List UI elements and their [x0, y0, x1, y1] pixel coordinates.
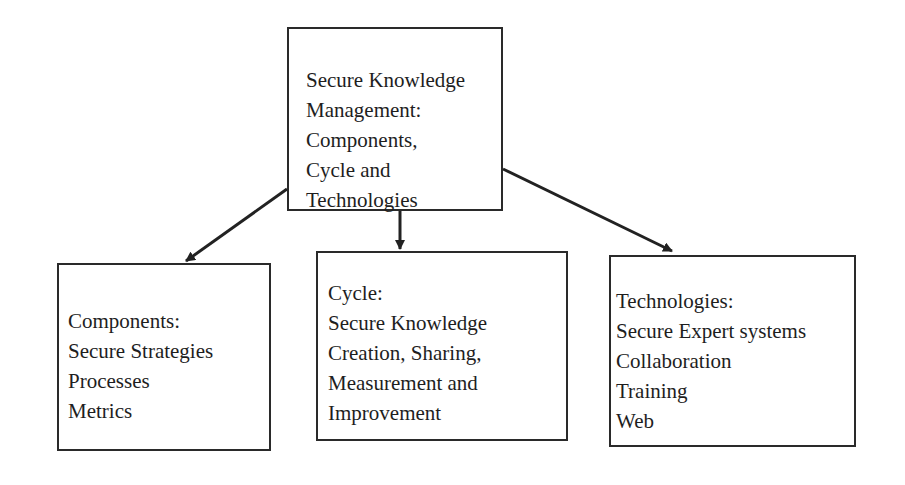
arrow-root-to-components: [186, 189, 287, 261]
arrow-root-to-technologies: [503, 169, 672, 251]
technologies-node-text: Technologies: Secure Expert systems Coll…: [616, 286, 806, 436]
technologies-line: Web: [616, 406, 806, 436]
technologies-line: Technologies:: [616, 286, 806, 316]
root-line: Cycle and: [306, 155, 465, 185]
root-line: Components,: [306, 125, 465, 155]
technologies-line: Secure Expert systems: [616, 316, 806, 346]
cycle-node-text: Cycle: Secure Knowledge Creation, Sharin…: [328, 278, 487, 428]
technologies-line: Training: [616, 376, 806, 406]
cycle-line: Secure Knowledge: [328, 308, 487, 338]
cycle-line: Cycle:: [328, 278, 487, 308]
components-node: Components: Secure Strategies Processes …: [57, 263, 271, 451]
cycle-line: Improvement: [328, 398, 487, 428]
components-line: Components:: [68, 306, 213, 336]
components-line: Processes: [68, 366, 213, 396]
root-line: Management:: [306, 95, 465, 125]
components-line: Secure Strategies: [68, 336, 213, 366]
cycle-line: Measurement and: [328, 368, 487, 398]
root-line: Technologies: [306, 185, 465, 215]
root-line: Secure Knowledge: [306, 65, 465, 95]
cycle-node: Cycle: Secure Knowledge Creation, Sharin…: [316, 251, 568, 441]
root-node: Secure Knowledge Management: Components,…: [287, 27, 503, 211]
root-node-text: Secure Knowledge Management: Components,…: [306, 65, 465, 215]
cycle-line: Creation, Sharing,: [328, 338, 487, 368]
components-node-text: Components: Secure Strategies Processes …: [68, 306, 213, 426]
components-line: Metrics: [68, 396, 213, 426]
technologies-line: Collaboration: [616, 346, 806, 376]
technologies-node: Technologies: Secure Expert systems Coll…: [609, 255, 856, 447]
